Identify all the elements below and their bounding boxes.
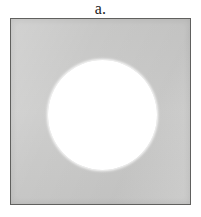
figure-root: a. [0, 0, 201, 217]
figure-caption: a. [0, 0, 201, 18]
image-panel [10, 18, 191, 205]
bright-disc-shape [48, 60, 157, 170]
